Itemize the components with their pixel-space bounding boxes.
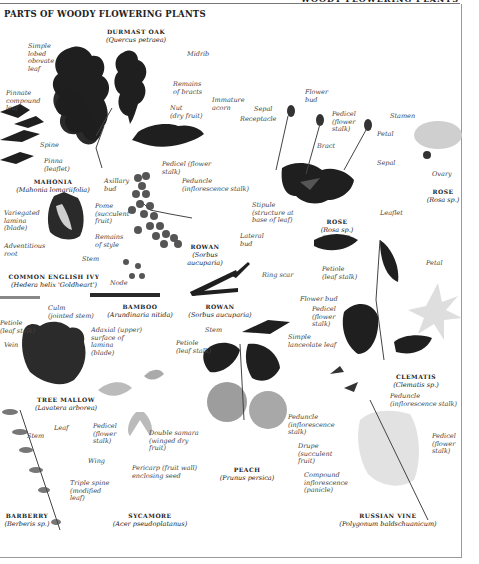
bamboo-culm-icon [90,293,160,297]
label-petiole-mallow: Petiole (leaf stalk) [0,320,35,335]
caption-sycamore: SYCAMORE(Acer pseudoplatanus) [110,512,190,528]
label-wing: Wing [88,458,105,466]
caption-bamboo: BAMBOO(Arundinaria nitida) [100,303,180,319]
label-flower-bud-clematis: Flower bud [300,296,338,304]
label-variegated-lamina: Variegated lamina (blade) [4,210,40,233]
caption-russian-vine: RUSSIAN VINE(Polygonum baldschuanicum) [328,512,448,528]
label-peduncle-vine: Peduncle (inflorescence stalk) [390,393,457,408]
label-remains-style: Remains of style [95,234,123,249]
label-pedicel-clematis: Pedicel (flower stalk) [312,306,336,329]
label-simple-lobed-leaf: Simple lobed obovate leaf [28,43,54,73]
label-pinnate-leaf: Pinnate compound leaf [6,90,40,113]
label-spine: Spine [40,142,59,150]
russian-vine-icon [358,411,419,486]
label-petal-rose: Petal [377,131,394,139]
rose-leaves-icon [282,163,354,204]
label-sepal-rose-flower: Sepal [377,160,395,168]
oak-leaf-right-icon [114,50,146,124]
clematis-flower-icon [408,283,462,340]
label-ovary: Ovary [432,171,452,179]
label-triple-spine: Triple spine (modified leaf) [70,480,109,503]
label-pinna: Pinna (leaflet) [44,158,70,173]
label-adaxial-surface: Adaxial (upper) surface of lamina (blade… [91,327,142,357]
label-stem-peach: Stem [205,327,222,335]
label-stamen: Stamen [390,113,415,121]
label-ring-scar: Ring scar [262,272,293,280]
caption-mahonia: MAHONIA(Mahonia lomariifolia) [8,178,98,194]
label-double-samara: Double samara (winged dry fruit) [149,430,199,453]
label-stem-barberry: Stem [27,433,44,441]
caption-rowan-berries: ROWAN(Sorbus aucuparia) [176,243,234,267]
label-petiole-peach: Petiole (leaf stalk) [176,340,211,355]
label-pedicel-vine: Pedicel (flower stalk) [432,433,456,456]
label-pedicel-rose: Pedicel (flower stalk) [332,111,356,134]
label-pedicel-rowan: Pedicel (flower stalk) [162,161,211,176]
label-immature-acorn: Immature acorn [212,97,245,112]
caption-clematis: CLEMATIS(Clematis sp.) [386,373,446,389]
caption-rose-stem: ROSE(Rosa sp.) [312,218,362,234]
label-nut: Nut (dry fruit) [170,105,202,120]
label-compound-inflorescence: Compound inflorescence (panicle) [304,472,348,495]
peach-fruit-icon [207,382,247,422]
label-remains-bracts: Remains of bracts [173,81,202,96]
caption-rowan-twig: ROWAN(Sorbus aucuparia) [180,303,260,319]
label-drupe: Drupe (succulent fruit) [298,443,332,466]
label-midrib: Midrib [187,51,209,59]
label-leaf-barberry: Leaf [54,425,68,433]
label-stipule: Stipule (structure at base of leaf) [252,202,294,225]
label-adventitious-root: Adventitious root [4,243,45,258]
label-peduncle-peach: Peduncle (inflorescence stalk) [288,414,335,437]
label-pedicel-sycamore: Pedicel (flower stalk) [93,423,117,446]
label-axillary-bud: Axillary bud [104,178,129,193]
caption-peach: PEACH(Prunus persica) [212,466,282,482]
rowan-berries-icon [123,172,182,279]
label-simple-lanceolate-leaf: Simple lanceolate leaf [288,334,336,349]
caption-rose-flower: ROSE(Rosa sp.) [418,188,468,204]
label-flower-bud-rose: Flower bud [305,89,328,104]
label-petal-clematis: Petal [426,260,443,268]
label-vein: Vein [4,342,18,350]
label-pome: Pome (succulent fruit) [95,203,129,226]
label-pericarp: Pericarp (fruit wall) enclosing seed [132,465,197,480]
oak-leaf-lower-icon [132,124,204,147]
label-node: Node [110,280,128,288]
caption-barberry: BARBERRY(Berberis sp.) [2,512,52,528]
label-receptacle: Receptacle [240,116,276,124]
label-bract: Bract [317,143,335,151]
rose-flower-icon [414,121,462,149]
caption-oak: DURMAST OAK(Quercus petraea) [96,28,176,44]
label-stem-ivy: Stem [82,256,99,264]
label-leaflet: Leaflet [380,210,403,218]
label-petiole-clematis: Petiole (leaf stalk) [322,266,357,281]
encyclopedia-page: WOODY FLOWERING PLANTS PARTS OF WOODY FL… [0,0,479,564]
caption-tree-mallow: TREE MALLOW(Lavatera arborea) [26,396,106,412]
label-sepal-rose: Sepal [254,106,272,114]
label-lateral-bud: Lateral bud [240,233,264,248]
caption-ivy: COMMON ENGLISH IVY(Hedera helix 'Goldhea… [0,273,108,289]
label-culm: Culm (jointed stem) [48,305,94,320]
rose-bud-icon [287,105,295,117]
clematis-leaves-icon [314,234,358,250]
label-peduncle-rowan: Peduncle (inflorescence stalk) [182,178,249,193]
